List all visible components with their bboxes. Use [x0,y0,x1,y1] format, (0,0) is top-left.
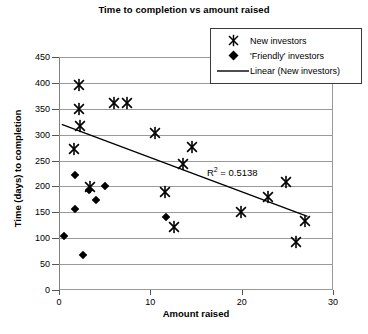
data-point-friendly-investors [59,227,68,236]
data-point-friendly-investors [92,191,101,200]
data-point-new-investors [298,213,311,226]
data-point-new-investors [67,141,80,154]
y-axis-tick-label: 0 [45,285,50,295]
y-axis-tick-label: 250 [35,156,50,166]
y-axis-tick [52,57,59,58]
legend-label: 'Friendly' investors [250,51,324,61]
chart-legend: New investors 'Friendly' investors Linea… [210,28,362,84]
y-axis-tick-label: 350 [35,104,50,114]
x-axis-tick-label: 20 [237,297,247,307]
data-point-friendly-investors [100,177,109,186]
y-axis-tick [52,161,59,162]
x-axis-tick-label: 0 [56,297,61,307]
y-axis-title: Time (days) to completion [12,94,23,244]
y-axis-tick-label: 200 [35,181,50,191]
x-axis-tick [333,290,334,295]
data-point-new-investors [289,234,302,247]
legend-item-friendly-investors: 'Friendly' investors [216,48,356,63]
y-axis-tick [52,135,59,136]
data-point-new-investors [158,184,171,197]
x-axis-tick [59,290,60,295]
data-point-new-investors [74,119,87,132]
y-axis-tick [52,212,59,213]
legend-item-linear-trend: Linear (New investors) [216,63,356,78]
r-squared-annotation: R2 = 0.5138 [207,166,258,178]
plot-area: 050100150200250300350400450 0102030 R2 =… [59,57,333,290]
x-axis-tick-label: 10 [145,297,155,307]
y-axis-tick [52,264,59,265]
x-axis-title: Amount raised [59,308,333,319]
y-axis-tick [52,238,59,239]
data-point-new-investors [73,78,86,91]
line-swatch-icon [216,67,250,75]
y-axis-tick-label: 100 [35,233,50,243]
data-point-new-investors [234,205,247,218]
data-point-friendly-investors [71,200,80,209]
chart-container: Time to completion vs amount raised Time… [0,0,368,334]
data-point-friendly-investors [161,207,170,216]
data-point-new-investors [148,126,161,139]
y-axis-tick-label: 300 [35,130,50,140]
x-axis-tick-label: 30 [328,297,338,307]
legend-label: Linear (New investors) [250,66,340,76]
y-axis-tick-label: 150 [35,207,50,217]
y-axis-tick [52,186,59,187]
x-star-marker-icon [216,34,250,47]
y-axis-tick [52,290,59,291]
x-axis-tick [150,290,151,295]
y-axis-tick [52,83,59,84]
y-axis-tick-label: 400 [35,78,50,88]
x-axis-tick [242,290,243,295]
data-point-new-investors [186,140,199,153]
data-point-friendly-investors [78,245,87,254]
diamond-marker-icon [216,50,250,61]
data-point-friendly-investors [85,180,94,189]
data-point-new-investors [280,174,293,187]
legend-item-new-investors: New investors [216,33,356,48]
data-point-friendly-investors [71,166,80,175]
data-point-new-investors [262,190,275,203]
chart-title: Time to completion vs amount raised [0,4,368,15]
legend-label: New investors [250,36,307,46]
data-point-new-investors [177,156,190,169]
data-point-new-investors [120,96,133,109]
data-point-new-investors [107,96,120,109]
y-axis-tick-label: 450 [35,52,50,62]
y-axis-tick-label: 50 [40,259,50,269]
data-point-new-investors [73,101,86,114]
y-axis-tick [52,109,59,110]
